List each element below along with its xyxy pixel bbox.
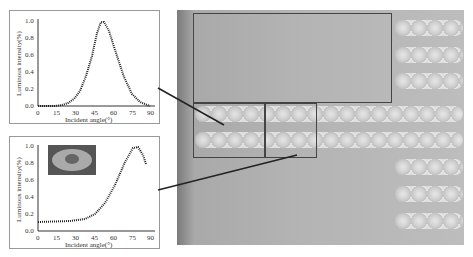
figure: Luminous intensity(%) 0.00.20.40.60.81.0… xyxy=(0,0,473,257)
leader-lines xyxy=(0,0,473,257)
